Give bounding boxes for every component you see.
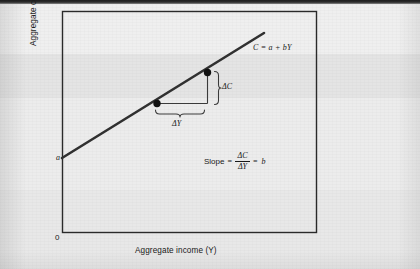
x-axis-title: Aggregate income (Y) bbox=[135, 247, 217, 255]
origin-label: 0 bbox=[55, 234, 59, 242]
slope-result: b bbox=[262, 157, 266, 166]
slope-numerator: ΔC bbox=[235, 152, 249, 161]
slope-fraction: ΔC ΔY bbox=[235, 152, 250, 172]
consumption-function-line bbox=[62, 33, 264, 158]
delta-y-label: ΔY bbox=[172, 120, 181, 128]
slope-formula: Slope = ΔC ΔY = b bbox=[204, 152, 266, 172]
slope-equals-first: = bbox=[227, 157, 232, 166]
slope-equals-second: = bbox=[253, 157, 258, 166]
delta-c-label: ΔC bbox=[222, 83, 232, 91]
plot-canvas bbox=[0, 0, 420, 269]
y-axis-title: Aggregate consumption (C) bbox=[30, 0, 38, 46]
line-equation-label: C = a + bY bbox=[253, 44, 292, 52]
consumption-function-figure: Aggregate consumption (C) Aggregate inco… bbox=[0, 0, 420, 269]
lower-data-point bbox=[153, 100, 160, 107]
delta-y-brace bbox=[156, 110, 205, 117]
slope-denominator: ΔY bbox=[236, 162, 249, 171]
upper-data-point bbox=[204, 69, 211, 76]
slope-word: Slope bbox=[204, 157, 224, 166]
delta-c-brace bbox=[215, 72, 222, 105]
y-intercept-label: a bbox=[56, 154, 60, 162]
figure-page: Aggregate consumption (C) Aggregate inco… bbox=[0, 0, 420, 269]
